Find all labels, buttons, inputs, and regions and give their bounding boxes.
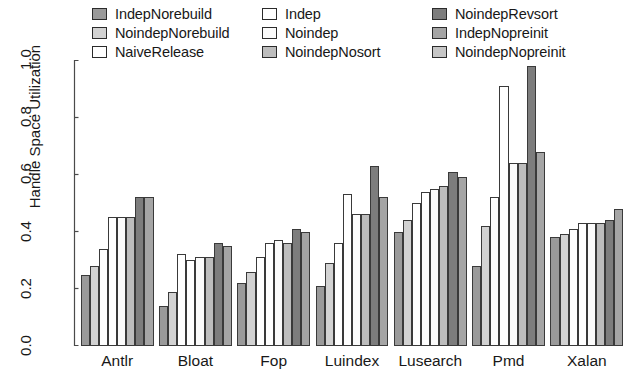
bar <box>177 254 186 346</box>
bar <box>186 260 195 346</box>
bar <box>490 197 499 346</box>
bar <box>536 152 545 346</box>
bar <box>301 232 310 346</box>
bar <box>578 223 587 346</box>
bar <box>472 266 481 346</box>
bar <box>117 217 126 346</box>
legend-swatch-icon <box>262 8 277 20</box>
legend-entry: IndepNopreinit <box>432 23 628 42</box>
bar <box>108 217 117 346</box>
bar <box>135 197 144 346</box>
legend-entry: Noindep <box>262 23 432 42</box>
y-tick-label: 0.0 <box>17 325 34 367</box>
bar <box>223 246 232 346</box>
y-tick-label: 0.6 <box>17 153 34 195</box>
bar <box>527 66 536 346</box>
y-tick-label: 1.0 <box>17 39 34 81</box>
bar <box>237 283 246 346</box>
bar <box>99 249 108 346</box>
bar <box>214 243 223 346</box>
bar-chart-figure: IndepNorebuildIndepNoindepRevsortNoindep… <box>0 0 634 380</box>
bar-group <box>159 60 232 346</box>
bar-group <box>237 60 310 346</box>
bar <box>361 214 370 346</box>
legend-entry: NoindepNorebuild <box>92 23 262 42</box>
bar <box>481 226 490 346</box>
legend-entry: NoindepNopreinit <box>432 42 628 61</box>
legend-label: NaiveRelease <box>115 45 204 59</box>
bar <box>205 257 214 346</box>
legend-entry: NoindepNosort <box>262 42 432 61</box>
bar <box>343 194 352 346</box>
bar <box>439 186 448 346</box>
legend-swatch-icon <box>92 27 107 39</box>
bar-group <box>81 60 154 346</box>
bar-group <box>550 60 623 346</box>
bar-group <box>394 60 467 346</box>
legend-label: NoindepNopreinit <box>455 45 565 59</box>
legend-label: NoindepNorebuild <box>115 26 229 40</box>
y-tick-label: 0.2 <box>17 267 34 309</box>
legend-entry: Indep <box>262 4 432 23</box>
bar <box>394 232 403 346</box>
legend-entry: IndepNorebuild <box>92 4 262 23</box>
bar <box>265 243 274 346</box>
legend-entry: NaiveRelease <box>92 42 262 61</box>
bar <box>334 243 343 346</box>
bar <box>256 257 265 346</box>
bar <box>144 197 153 346</box>
bar-groups: AntlrBloatFopLuindexLusearchPmdXalan <box>77 60 625 346</box>
legend-swatch-icon <box>432 8 447 20</box>
bar <box>352 214 361 346</box>
legend-entry: NoindepRevsort <box>432 4 628 23</box>
bar <box>412 203 421 346</box>
bar <box>421 192 430 346</box>
bar <box>325 263 334 346</box>
bar <box>90 266 99 346</box>
bar <box>292 229 301 346</box>
bar <box>569 229 578 346</box>
y-tick-label: 0.8 <box>17 96 34 138</box>
bar <box>509 163 518 346</box>
bar <box>596 223 605 346</box>
bar <box>168 292 177 346</box>
legend-swatch-icon <box>92 46 107 58</box>
plot-area: AntlrBloatFopLuindexLusearchPmdXalan <box>77 60 625 346</box>
bar <box>605 220 614 346</box>
bar <box>403 220 412 346</box>
legend-label: NoindepRevsort <box>455 7 558 21</box>
bar-group <box>472 60 545 346</box>
chart-legend: IndepNorebuildIndepNoindepRevsortNoindep… <box>92 4 628 62</box>
legend-label: Indep <box>285 7 321 21</box>
legend-swatch-icon <box>92 8 107 20</box>
bar <box>246 272 255 346</box>
bar <box>370 166 379 346</box>
bar <box>448 172 457 346</box>
legend-label: NoindepNosort <box>285 45 380 59</box>
bar <box>379 197 388 346</box>
legend-swatch-icon <box>262 46 277 58</box>
bar <box>316 286 325 346</box>
bar <box>458 177 467 346</box>
bar <box>126 217 135 346</box>
legend-swatch-icon <box>432 27 447 39</box>
legend-label: IndepNorebuild <box>115 7 212 21</box>
bar <box>587 223 596 346</box>
bar <box>518 163 527 346</box>
bar <box>274 240 283 346</box>
bar <box>81 275 90 347</box>
bar-group <box>316 60 389 346</box>
x-axis-group-label: Xalan <box>536 352 634 370</box>
bar <box>614 209 623 346</box>
legend-swatch-icon <box>432 46 447 58</box>
bar <box>560 234 569 346</box>
legend-label: Noindep <box>285 26 338 40</box>
bar <box>550 237 559 346</box>
bar <box>430 189 439 346</box>
bar <box>195 257 204 346</box>
legend-label: IndepNopreinit <box>455 26 548 40</box>
legend-swatch-icon <box>262 27 277 39</box>
bar <box>159 306 168 346</box>
bar <box>499 86 508 346</box>
y-tick-label: 0.4 <box>17 210 34 252</box>
